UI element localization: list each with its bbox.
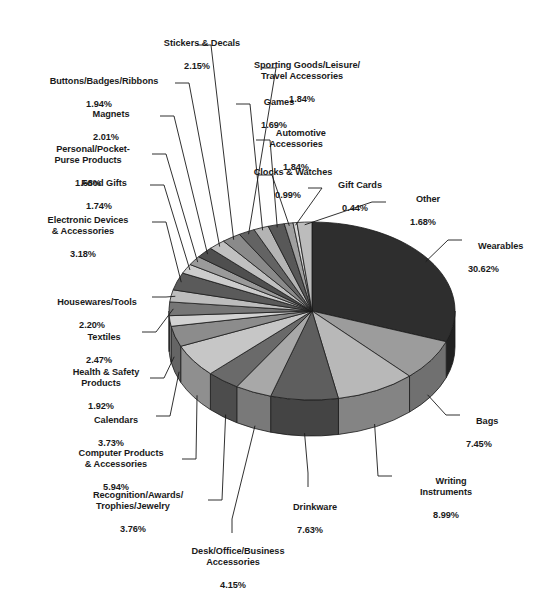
label-percent: 8.99% [396,510,496,522]
label-title: Stickers & Decals [164,38,240,48]
label-title: Drinkware [293,502,337,512]
label-title: Buttons/Badges/Ribbons [50,76,159,86]
label-percent: 30.62% [468,264,538,276]
label-title: Writing Instruments [420,476,472,498]
label-title: Food Gifts [81,178,126,188]
label-percent: 4.15% [138,580,328,592]
label-title: Computer Products & Accessories [79,448,164,470]
leader-line [208,415,226,500]
leader-line [305,433,308,487]
label-title: Other [416,194,440,204]
label-title: Games [264,97,294,107]
label-title: Personal/Pocket- Purse Products [54,144,129,166]
label-percent: 3.18% [10,249,156,261]
label-other: Other 1.68% [392,182,454,252]
label-title: Magnets [93,109,130,119]
label-title: Calendars [94,415,138,425]
label-desk-office: Desk/Office/Business Accessories 4.15% [138,534,328,593]
label-percent: 7.45% [466,439,524,451]
label-title: Bags [476,416,498,426]
label-writing-instruments: Writing Instruments 8.99% [396,464,496,545]
label-title: Textiles [87,332,120,342]
label-wearables: Wearables 30.62% [468,229,538,299]
label-title: Gift Cards [338,180,382,190]
label-percent: 1.68% [392,217,454,229]
leader-line [152,154,198,262]
label-title: Health & Safety Products [73,367,140,389]
pie-chart: Stickers & Decals 2.15% Sporting Goods/L… [0,0,538,593]
label-title: Housewares/Tools [57,297,137,307]
leader-line [232,426,255,533]
label-gift-cards: Gift Cards 0.44% [314,168,396,238]
label-title: Wearables [478,241,523,251]
label-title: Desk/Office/Business Accessories [192,546,285,568]
label-title: Recognition/Awards/ Trophies/Jewelry [93,490,183,512]
label-title: Electronic Devices & Accessories [48,215,129,237]
pie-slice-side [271,396,339,436]
label-title: Automotive Accessories [269,128,326,150]
leader-line [152,222,181,282]
label-percent: 0.44% [314,203,396,215]
label-title: Sporting Goods/Leisure/ Travel Accessori… [254,60,360,82]
label-electronic-devices: Electronic Devices & Accessories 3.18% [10,203,156,284]
leader-line [428,395,460,415]
leader-line [375,424,392,476]
